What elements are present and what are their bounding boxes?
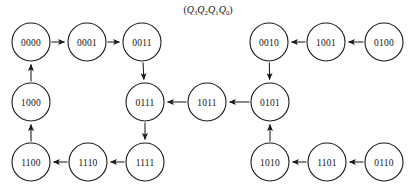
state-node-1000[interactable]: 1000	[12, 83, 50, 121]
state-node-label-1011: 1011	[197, 98, 216, 108]
state-node-label-0110: 0110	[374, 158, 393, 168]
state-node-0010[interactable]: 0010	[250, 23, 288, 61]
state-node-0001[interactable]: 0001	[68, 23, 106, 61]
state-node-0111[interactable]: 0111	[126, 83, 164, 121]
state-transition-diagram: (Q3Q2Q1Q0) 00000001001100101001010010000…	[0, 0, 416, 193]
state-node-label-0000: 0000	[21, 38, 41, 48]
state-node-label-1100: 1100	[21, 158, 40, 168]
state-node-1101[interactable]: 1101	[308, 143, 346, 181]
state-node-label-0010: 0010	[259, 38, 279, 48]
state-node-label-0001: 0001	[77, 38, 97, 48]
state-node-0011[interactable]: 0011	[123, 23, 161, 61]
state-node-1100[interactable]: 1100	[12, 143, 50, 181]
state-node-label-0100: 0100	[374, 38, 394, 48]
state-node-label-1000: 1000	[21, 98, 41, 108]
state-node-0101[interactable]: 0101	[251, 83, 289, 121]
state-node-0100[interactable]: 0100	[365, 23, 403, 61]
state-node-label-1110: 1110	[78, 158, 97, 168]
state-node-label-0011: 0011	[132, 38, 151, 48]
state-node-0110[interactable]: 0110	[365, 143, 403, 181]
state-node-label-1111: 1111	[136, 158, 155, 168]
state-node-label-0101: 0101	[260, 98, 280, 108]
state-node-1111[interactable]: 1111	[126, 143, 164, 181]
state-node-label-1101: 1101	[317, 158, 336, 168]
state-node-1010[interactable]: 1010	[251, 143, 289, 181]
state-node-label-0111: 0111	[135, 98, 154, 108]
state-node-label-1001: 1001	[316, 38, 336, 48]
state-node-1110[interactable]: 1110	[69, 143, 107, 181]
state-node-1011[interactable]: 1011	[188, 83, 226, 121]
state-nodes-layer: 0000000100110010100101001000011110110101…	[12, 23, 403, 181]
state-graph-canvas: 0000000100110010100101001000011110110101…	[0, 0, 416, 193]
transition-edge-0011-to-0111	[143, 62, 144, 79]
state-node-0000[interactable]: 0000	[12, 23, 50, 61]
state-node-1001[interactable]: 1001	[307, 23, 345, 61]
state-node-label-1010: 1010	[260, 158, 280, 168]
